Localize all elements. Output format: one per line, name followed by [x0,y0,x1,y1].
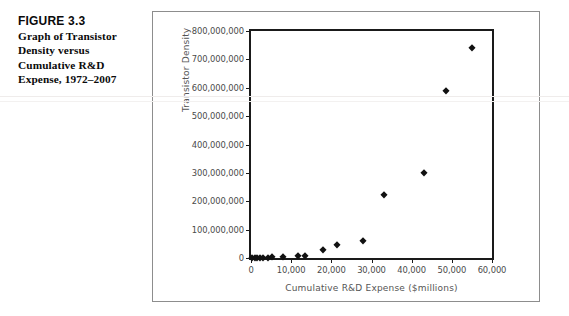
y-axis-tick-label: 800,000,000 [192,26,244,36]
y-axis-tick [246,173,251,174]
data-point [420,169,427,176]
y-axis-tick [246,59,251,60]
y-axis-tick [246,88,251,89]
y-axis-tick [246,201,251,202]
x-axis-tick [331,258,332,263]
data-point [302,252,309,259]
y-axis-tick-label: 100,000,000 [192,225,244,235]
data-point [468,44,475,51]
x-axis-tick [372,258,373,263]
y-axis-title: Transistor Density [181,28,191,112]
figure-border: Transistor Density Cumulative R&D Expens… [152,11,540,302]
y-axis-tick [246,116,251,117]
y-axis-tick-label: 600,000,000 [192,83,244,93]
data-point [334,242,341,249]
y-axis-tick-label: 200,000,000 [192,196,244,206]
data-point [380,191,387,198]
x-axis-tick-label: 0 [248,265,253,275]
x-axis-tick [452,258,453,263]
y-axis-tick [246,145,251,146]
x-axis-tick-label: 60,000 [478,265,507,275]
data-point [442,87,449,94]
x-axis-tick [412,258,413,263]
data-point [360,237,367,244]
y-axis-tick-label: 300,000,000 [192,168,244,178]
figure-caption-text: Graph of Transistor Density versus Cumul… [18,29,140,86]
x-axis-tick [492,258,493,263]
y-axis-tick-label: 0 [239,253,244,263]
y-axis-tick-label: 700,000,000 [192,54,244,64]
y-axis-tick-label: 400,000,000 [192,140,244,150]
x-axis-tick-label: 50,000 [437,265,466,275]
y-axis-tick-label: 500,000,000 [192,111,244,121]
y-axis-tick [246,230,251,231]
x-axis-tick-label: 10,000 [277,265,306,275]
plot-area: 0100,000,000200,000,000300,000,000400,00… [249,29,494,260]
figure-number: FIGURE 3.3 [18,14,140,28]
x-axis-title: Cumulative R&D Expense ($millions) [249,283,494,293]
figure-caption: FIGURE 3.3 Graph of Transistor Density v… [18,14,140,86]
x-axis-tick-label: 40,000 [397,265,426,275]
x-axis-tick-label: 20,000 [317,265,346,275]
data-point [279,253,286,260]
x-axis-tick [291,258,292,263]
x-axis-tick-label: 30,000 [357,265,386,275]
y-axis-tick [246,31,251,32]
data-point [320,246,327,253]
